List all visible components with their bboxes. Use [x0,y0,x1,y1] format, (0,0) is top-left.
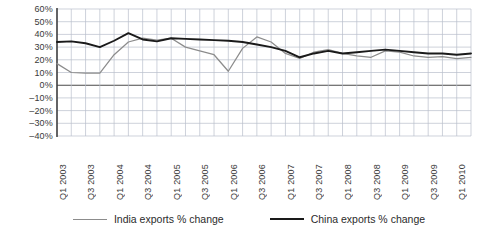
x-tick-label: Q3 2008 [373,164,382,200]
y-tick-label: 0% [40,80,53,90]
x-tick-label: Q1 2008 [344,164,353,200]
plot-area [57,9,471,136]
legend-entry: India exports % change [73,213,224,225]
x-tick-label: Q3 2005 [201,164,210,200]
x-tick-label: Q3 2009 [430,164,439,200]
legend-entry: China exports % change [270,213,425,225]
x-tick-label: Q1 2007 [287,164,296,200]
x-tick-label: Q1 2005 [173,164,182,200]
legend-label: China exports % change [311,213,425,225]
legend-label: India exports % change [114,213,224,225]
y-tick-label: 20% [34,55,53,65]
x-tick-label: Q1 2010 [458,164,467,200]
x-axis: Q1 2003Q3 2003Q1 2004Q3 2004Q1 2005Q3 20… [57,138,471,200]
x-tick-label: Q3 2004 [144,164,153,200]
chart-container: 60%50%40%30%20%10%0%–10%–20%–30%–40% Q1 … [0,0,498,238]
y-tick-label: –20% [29,106,53,116]
y-tick-label: 60% [34,4,53,14]
y-tick-label: 40% [34,29,53,39]
legend-swatch-line-icon [73,219,107,220]
x-tick-label: Q3 2003 [87,164,96,200]
y-tick-label: –30% [29,118,53,128]
x-tick-label: Q1 2003 [59,164,68,200]
x-tick-label: Q1 2006 [230,164,239,200]
chart-legend: India exports % changeChina exports % ch… [0,208,498,230]
series-line-india [57,37,471,73]
x-tick-label: Q3 2006 [258,164,267,200]
data-series-layer [57,9,471,136]
y-axis: 60%50%40%30%20%10%0%–10%–20%–30%–40% [0,0,53,238]
y-tick-label: 30% [34,42,53,52]
x-tick-label: Q1 2009 [401,164,410,200]
legend-swatch-line-icon [270,218,304,220]
y-tick-label: –10% [29,93,53,103]
x-tick-label: Q3 2007 [315,164,324,200]
y-tick-label: –40% [29,131,53,141]
x-tick-label: Q1 2004 [116,164,125,200]
y-tick-label: 50% [34,17,53,27]
y-tick-label: 10% [34,68,53,78]
series-line-china [57,33,471,57]
